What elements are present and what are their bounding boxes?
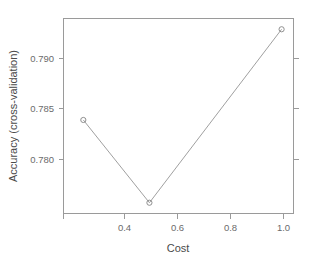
x-axis-title: Cost — [167, 242, 190, 254]
series-markers — [81, 27, 284, 206]
chart-figure: 0.780 0.785 0.790 0.4 0.6 0.8 1.0 Cost A… — [0, 0, 316, 261]
series-line-accuracy — [83, 29, 281, 202]
x-tick-label-10: 1.0 — [277, 222, 290, 233]
y-axis-ticks-right — [294, 59, 299, 160]
y-tick-label-0780: 0.780 — [30, 154, 54, 165]
y-tick-label-0790: 0.790 — [30, 53, 54, 64]
x-tick-label-06: 0.6 — [171, 222, 184, 233]
x-tick-label-04: 0.4 — [118, 222, 131, 233]
x-axis-ticks — [64, 214, 284, 219]
y-axis-title: Accuracy (cross-validation) — [7, 50, 19, 182]
accuracy-vs-cost-line-chart: 0.780 0.785 0.790 0.4 0.6 0.8 1.0 Cost A… — [0, 0, 316, 261]
y-axis-ticks — [59, 59, 64, 160]
x-tick-label-08: 0.8 — [224, 222, 237, 233]
data-series — [81, 27, 284, 206]
y-tick-labels: 0.780 0.785 0.790 — [30, 53, 54, 165]
frame-border — [64, 19, 294, 214]
y-tick-label-0785: 0.785 — [30, 103, 54, 114]
x-tick-labels: 0.4 0.6 0.8 1.0 — [118, 222, 290, 233]
plot-frame — [64, 19, 294, 214]
